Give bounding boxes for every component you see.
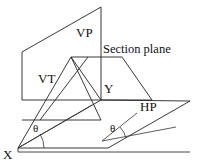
label-hp: HP — [140, 100, 157, 113]
theta-right-ray-up — [102, 113, 137, 141]
section-edge-right — [122, 57, 152, 100]
base-bottom-edge — [18, 148, 190, 152]
theta-left-ray — [18, 105, 92, 148]
label-theta-left: θ — [33, 123, 38, 134]
theta-left-arc — [40, 134, 44, 148]
vertical-plane-vp — [22, 7, 101, 100]
vt-trace-group — [18, 57, 101, 148]
diagram-canvas — [0, 0, 202, 167]
label-vt: VT — [38, 72, 55, 85]
section-plane-diagram: VP Section plane VT Y HP X θ θ — [0, 0, 202, 167]
label-x: X — [3, 148, 12, 161]
angle-theta-left — [18, 105, 92, 148]
label-vp: VP — [76, 26, 93, 39]
vt-parallel-line — [40, 57, 88, 120]
section-left-lower — [71, 57, 101, 120]
label-section-plane: Section plane — [103, 43, 171, 56]
section-edge-left — [71, 57, 101, 100]
label-theta-right: θ — [110, 123, 115, 134]
label-y: Y — [104, 82, 113, 95]
